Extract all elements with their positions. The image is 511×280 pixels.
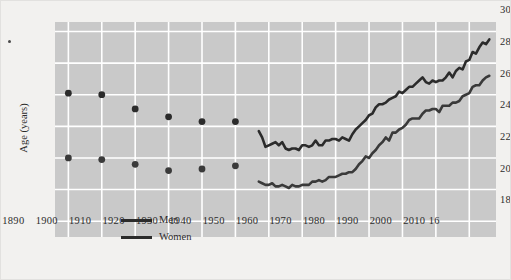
x-tick-1920: 1920 (102, 215, 124, 226)
y-tick-22: 22 (500, 130, 511, 141)
marker-men-1910 (132, 106, 139, 113)
stray-speck (8, 40, 11, 43)
marker-men-1920 (165, 113, 172, 120)
x-tick-1940: 1940 (169, 215, 191, 226)
x-tick-1930: 1930 (136, 215, 158, 226)
x-tick-1990: 1990 (336, 215, 358, 226)
marker-women-1940 (232, 162, 239, 169)
marker-women-1920 (165, 167, 172, 174)
legend-label-women: Women (159, 232, 191, 243)
marker-women-1930 (199, 166, 206, 173)
legend-item-women: Women (121, 229, 241, 246)
x-tick-1960: 1960 (236, 215, 258, 226)
marker-men-1930 (199, 118, 206, 125)
y-tick-26: 26 (500, 67, 511, 78)
line-women (259, 76, 490, 188)
x-tick-2000: 2000 (370, 215, 392, 226)
x-tick-1910: 1910 (69, 215, 91, 226)
data-series-layer (55, 22, 496, 237)
y-tick-30: 30 (500, 4, 511, 15)
marker-men-1940 (232, 118, 239, 125)
x-tick-1950: 1950 (203, 215, 225, 226)
y-tick-18: 18 (500, 194, 511, 205)
marker-men-1890 (65, 90, 72, 97)
marker-women-1890 (65, 155, 72, 162)
plot-area: Men Women (55, 22, 496, 237)
x-tick-16: 16 (429, 215, 440, 226)
marker-women-1910 (132, 161, 139, 168)
y-tick-24: 24 (500, 99, 511, 110)
legend-swatch-women (121, 236, 152, 239)
y-axis-title: Age (years) (18, 83, 29, 173)
marker-women-1900 (98, 156, 105, 163)
x-tick-1890: 1890 (2, 215, 24, 226)
y-tick-28: 28 (500, 36, 511, 47)
x-tick-1900: 1900 (36, 215, 58, 226)
x-tick-1980: 1980 (303, 215, 325, 226)
y-tick-20: 20 (500, 162, 511, 173)
line-men (259, 39, 490, 150)
x-tick-2010: 2010 (403, 215, 425, 226)
x-tick-1970: 1970 (270, 215, 292, 226)
figure: 18202224262830 Age (years) Men Women 189… (0, 0, 511, 280)
marker-men-1900 (98, 91, 105, 98)
